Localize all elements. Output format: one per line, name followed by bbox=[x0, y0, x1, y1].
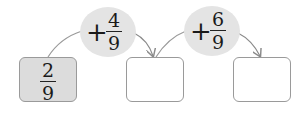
operation-bubble-1: + 4 9 bbox=[80, 7, 136, 57]
answer-box-2[interactable] bbox=[233, 57, 291, 102]
operation-bubble-2: + 6 9 bbox=[184, 6, 240, 56]
numerator: 2 bbox=[42, 60, 54, 80]
plus-operator: + bbox=[190, 18, 212, 44]
plus-operator: + bbox=[86, 19, 108, 45]
start-value-box: 2 9 bbox=[19, 57, 77, 102]
numerator: 6 bbox=[212, 9, 224, 29]
answer-box-1[interactable] bbox=[126, 57, 184, 102]
numerator: 4 bbox=[108, 10, 120, 30]
step-2-fraction: 6 9 bbox=[210, 9, 226, 52]
start-fraction: 2 9 bbox=[40, 60, 56, 103]
step-1-fraction: 4 9 bbox=[106, 10, 122, 53]
denominator: 9 bbox=[42, 83, 54, 103]
denominator: 9 bbox=[212, 32, 224, 52]
denominator: 9 bbox=[108, 33, 120, 53]
